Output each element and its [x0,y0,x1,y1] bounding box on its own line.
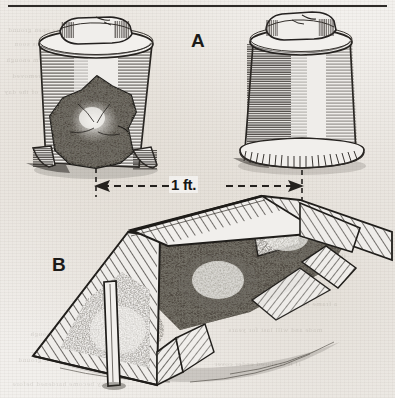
engraving-illustration [0,0,395,398]
pot-right-group [233,12,366,175]
weight-stone-right [266,12,336,40]
dimension-label-1ft: 1 ft. [169,176,198,193]
panel-label-a: A [191,30,205,52]
weight-stone-left [60,17,132,44]
figure-page: of the plants in the open ground and the… [0,0,395,398]
aframe-cloche-group [20,190,392,395]
panel-label-b: B [52,254,66,276]
pot-left-group [26,17,158,179]
